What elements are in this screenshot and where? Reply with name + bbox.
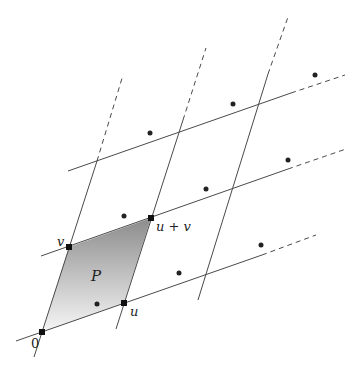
lattice-diagram: 0 u v u + v P <box>0 0 356 375</box>
label-v: v <box>57 234 65 249</box>
lattice-point <box>148 131 153 136</box>
lattice-point <box>231 102 236 107</box>
lattice-point <box>122 214 127 219</box>
u-line-2-dashed <box>291 75 345 93</box>
label-parallelogram-P: P <box>90 267 102 285</box>
vertex-origin-marker <box>39 329 45 335</box>
label-u-plus-v: u + v <box>156 219 192 234</box>
diagram-canvas: 0 u v u + v P <box>0 0 356 375</box>
v-line-1-dashed <box>183 48 206 120</box>
lattice-point <box>286 158 291 163</box>
lattice-point <box>95 302 100 307</box>
label-u: u <box>130 304 138 319</box>
vertex-v-marker <box>66 244 72 250</box>
vertex-u-marker <box>121 300 127 306</box>
u-line-1 <box>41 169 288 256</box>
lattice-point <box>204 187 209 192</box>
u-line-0-dashed <box>262 235 316 255</box>
lattice-point <box>177 271 182 276</box>
v-line-2-dashed <box>268 17 288 74</box>
lattice-point <box>313 73 318 78</box>
v-line-2 <box>198 74 268 300</box>
v-line-0-dashed <box>97 75 123 161</box>
lattice-point <box>259 243 264 248</box>
u-line-2 <box>68 93 291 171</box>
u-line-1-dashed <box>288 149 346 169</box>
vertex-u-plus-v-marker <box>148 215 154 221</box>
label-origin: 0 <box>31 336 39 351</box>
